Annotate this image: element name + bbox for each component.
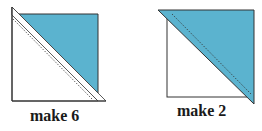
unit-right-figure <box>158 10 254 104</box>
unit-right-label: make 2 <box>177 102 226 120</box>
unit-left-figure <box>12 7 106 101</box>
unit-left-label: make 6 <box>30 107 79 125</box>
